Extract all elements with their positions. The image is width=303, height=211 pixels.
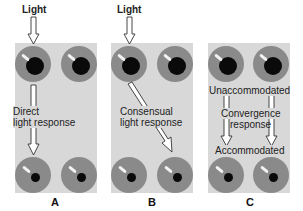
light-label-b: Light bbox=[117, 4, 141, 15]
accommodated-label: Accommodated bbox=[215, 145, 284, 156]
panel-label-a: A bbox=[51, 196, 59, 208]
convergence-label-line2: response bbox=[230, 119, 271, 130]
response-label-b-line1: Consensual bbox=[120, 106, 173, 117]
unaccommodated-label: Unaccommodated bbox=[209, 85, 290, 96]
panel-label-c: C bbox=[246, 196, 254, 208]
response-label-b-line2: light response bbox=[120, 117, 182, 128]
panel-label-b: B bbox=[148, 196, 156, 208]
response-label-a-line1: Direct bbox=[13, 106, 39, 117]
light-arrow-a bbox=[28, 17, 39, 44]
light-arrow-b bbox=[124, 17, 135, 44]
response-label-a-line2: light response bbox=[13, 117, 75, 128]
light-label-a: Light bbox=[22, 4, 46, 15]
convergence-label-line1: Convergence bbox=[221, 108, 280, 119]
